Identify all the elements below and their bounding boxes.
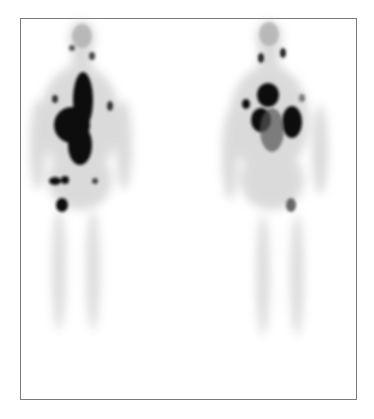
posterior-view xyxy=(222,21,328,335)
scan-figure xyxy=(0,0,374,419)
anterior-view xyxy=(30,21,132,330)
